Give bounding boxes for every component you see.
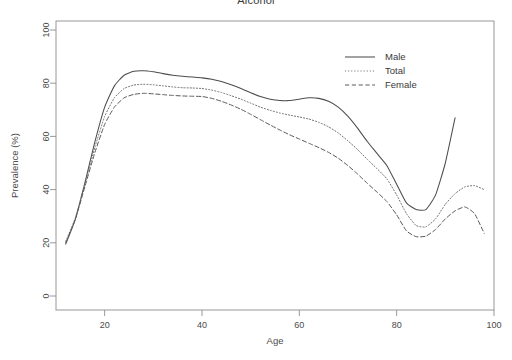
y-tick-label: 60 (41, 131, 51, 141)
series-line-male (66, 71, 455, 244)
y-tick-label: 80 (41, 78, 51, 88)
chart-figure: Alcohol 02040608010020406080100 MaleTota… (0, 0, 512, 360)
plot-canvas: 02040608010020406080100 MaleTotalFemale … (0, 0, 512, 360)
x-axis-title: Age (267, 335, 284, 346)
series-layer (66, 71, 485, 244)
legend-layer: MaleTotalFemale (345, 51, 417, 90)
series-line-total (66, 84, 485, 241)
y-tick-label: 100 (41, 22, 51, 37)
y-axis-title: Prevalence (%) (9, 133, 20, 198)
x-tick-label: 80 (392, 320, 402, 330)
x-tick-label: 60 (294, 320, 304, 330)
y-tick-label: 0 (41, 293, 51, 298)
x-tick-label: 20 (100, 320, 110, 330)
y-tick-label: 20 (41, 238, 51, 248)
legend-label-total: Total (385, 65, 405, 76)
series-line-female (66, 93, 485, 242)
axes-layer: 02040608010020406080100 (41, 21, 502, 330)
y-tick-label: 40 (41, 185, 51, 195)
legend-label-male: Male (385, 51, 406, 62)
plot-frame (56, 21, 494, 310)
legend-label-female: Female (385, 79, 417, 90)
x-tick-label: 100 (486, 320, 501, 330)
x-tick-label: 40 (197, 320, 207, 330)
